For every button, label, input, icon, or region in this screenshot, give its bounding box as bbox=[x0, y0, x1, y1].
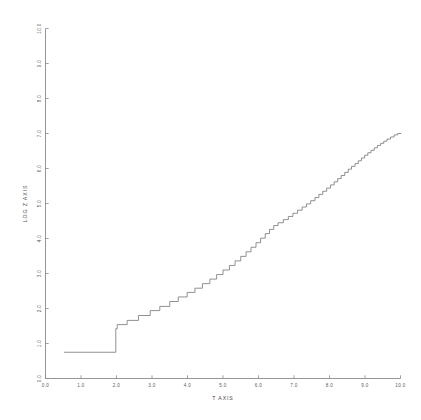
y-tick-label: 2.0 bbox=[37, 305, 42, 313]
y-tick-label: 1.0 bbox=[37, 340, 42, 348]
y-tick-label: 5.0 bbox=[37, 200, 42, 208]
y-tick-label: 3.0 bbox=[37, 270, 42, 278]
chart-figure: 0.01.02.03.04.05.06.07.08.09.010.0 0.01.… bbox=[0, 0, 421, 420]
x-tick-label: 4.0 bbox=[184, 383, 192, 388]
y-tick-label: 6.0 bbox=[37, 165, 42, 173]
y-tick-label: 8.0 bbox=[37, 95, 42, 103]
y-tick-label: 9.0 bbox=[37, 60, 42, 68]
x-tick-label: 9.0 bbox=[361, 383, 369, 388]
chart-svg: 0.01.02.03.04.05.06.07.08.09.010.0 0.01.… bbox=[0, 0, 421, 420]
x-tick-label: 7.0 bbox=[290, 383, 298, 388]
x-tick-label: 2.0 bbox=[113, 383, 121, 388]
x-tick-label: 1.0 bbox=[77, 383, 85, 388]
x-tick-label: 0.0 bbox=[42, 383, 50, 388]
x-axis: 0.01.02.03.04.05.06.07.08.09.010.0 bbox=[42, 375, 406, 388]
y-tick-label: 4.0 bbox=[37, 235, 42, 243]
y-tick-label: 10.0 bbox=[37, 23, 42, 33]
y-axis: 0.01.02.03.04.05.06.07.08.09.010.0 bbox=[37, 23, 49, 382]
x-tick-label: 10.0 bbox=[395, 383, 405, 388]
x-axis-title: T AXIS bbox=[212, 395, 233, 401]
x-axis-ticks bbox=[46, 375, 401, 378]
x-tick-label: 6.0 bbox=[255, 383, 263, 388]
y-tick-label: 7.0 bbox=[37, 130, 42, 138]
x-tick-label: 3.0 bbox=[148, 383, 156, 388]
y-tick-label: 0.0 bbox=[37, 375, 42, 383]
data-series-log-z bbox=[64, 134, 401, 353]
x-axis-tick-labels: 0.01.02.03.04.05.06.07.08.09.010.0 bbox=[42, 383, 406, 388]
y-axis-title: LOG Z AXIS bbox=[22, 185, 28, 223]
data-series-group bbox=[64, 134, 401, 353]
y-axis-tick-labels: 0.01.02.03.04.05.06.07.08.09.010.0 bbox=[37, 23, 42, 382]
x-tick-label: 8.0 bbox=[326, 383, 334, 388]
x-tick-label: 5.0 bbox=[219, 383, 227, 388]
y-axis-ticks bbox=[46, 29, 49, 379]
